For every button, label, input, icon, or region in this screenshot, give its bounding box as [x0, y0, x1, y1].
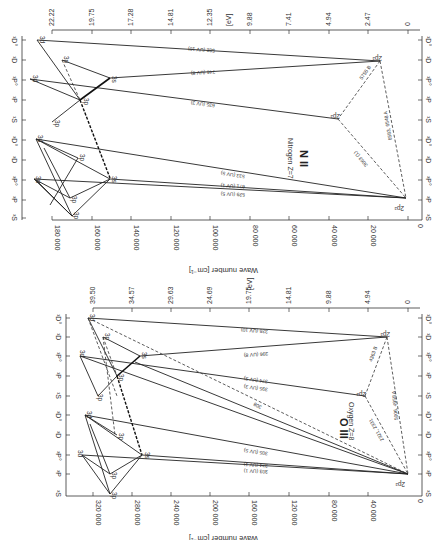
n2-ev-label: [eV] — [225, 13, 233, 26]
n2-term-right: ³P° — [425, 176, 432, 186]
o3-level-3d: 3d — [79, 350, 86, 358]
n2-term-right: ¹S — [425, 116, 432, 123]
n2-line-label: 6583, 6548 A — [382, 110, 393, 141]
n2-level-3d: 3d — [39, 36, 46, 44]
o3-wave-tick: 280 000 — [134, 500, 141, 525]
o3-wave-tick: 320 000 — [95, 500, 102, 525]
n2-term: ¹D° — [11, 36, 18, 46]
n2-level-2p2: 2p² — [394, 204, 404, 212]
n2-level-3s: 3s — [111, 76, 118, 84]
o3-level-3d: 3d — [89, 314, 96, 322]
n2-term: ³P — [11, 196, 18, 203]
n2-line-label: 582 (UV 10) — [187, 46, 215, 54]
o3-term: ¹D — [55, 333, 62, 340]
n2-ev-tick: 7.41 — [285, 12, 292, 26]
o3-term: ³P° — [55, 451, 62, 461]
n2-ev-tick: 2.47 — [364, 12, 371, 26]
n2-ev-tick: 12.35 — [206, 8, 213, 26]
o3-wave-tick: 80 000 — [331, 500, 338, 522]
o3-term-right: ¹S — [425, 392, 432, 399]
o3-level-3s: 3s — [144, 452, 151, 460]
o3-ev-tick: 14.81 — [285, 286, 292, 304]
o3-term-right: ¹P° — [425, 352, 432, 362]
o3-wave-tick: 120 000 — [291, 500, 298, 525]
n2-term-right: ¹D — [425, 56, 432, 63]
o3-term: ³D° — [55, 411, 62, 421]
grotrian-diagrams: 22.22 19.75 17.28 14.81 12.35 9.88 7.41 … — [0, 0, 432, 540]
n2-wave-label: Wave number [cm⁻¹] — [189, 266, 258, 275]
o3-term-right: ³P — [425, 470, 432, 477]
o3-level-3s: 3s — [141, 352, 148, 360]
n2-wave-tick: 100 000 — [212, 225, 219, 250]
o3-wave-tick: 40 000 — [370, 500, 377, 522]
n2-wave-tick: 0 — [417, 224, 424, 228]
n2-term: ¹D — [11, 56, 18, 63]
n2-level-3d: 3d — [35, 176, 42, 184]
o3-ev-tick: 0 — [404, 300, 411, 304]
o3-line-label: 374 (UV 3) — [243, 376, 268, 385]
n2-level-3s: 3s — [111, 176, 118, 184]
n2-term-right: ³D — [425, 156, 432, 163]
n2-term: ³D — [11, 156, 18, 163]
o3-ev-tick: 9.88 — [325, 290, 332, 304]
o3-level-3d: 3d — [86, 411, 93, 419]
o3-line-label: 2321, 2331 — [367, 418, 385, 443]
n2-title: N II — [298, 150, 310, 167]
o3-term-right: ³D° — [425, 411, 432, 421]
o3-term: ³D — [55, 431, 62, 438]
o3-term-right: ¹P — [425, 372, 432, 379]
o3-line-label: 396 (UV 8) — [243, 351, 268, 359]
n2-term-right: ³S — [425, 214, 432, 221]
n2-term-right: ³P — [425, 196, 432, 203]
n2-wave-tick: 160 000 — [94, 225, 101, 250]
n2-transitions — [30, 40, 406, 216]
o3-line-label: 5006, 4958 A — [390, 390, 399, 421]
o3-ev-tick: 34.57 — [128, 286, 135, 304]
o3-line-label: 303 (UV 1) — [243, 468, 268, 475]
o3-term: ¹D° — [55, 314, 62, 324]
n2-ev-tick: 22.22 — [48, 8, 55, 26]
n2-wave-tick: 60 000 — [291, 225, 298, 247]
n2-wave-tick: 120 000 — [173, 225, 180, 250]
n2-panel: 22.22 19.75 17.28 14.81 12.35 9.88 7.41 … — [11, 8, 432, 275]
o3-term: ³S — [55, 490, 62, 497]
o3-term: ³P — [55, 470, 62, 477]
n2-level-3p: 3p — [62, 56, 70, 64]
n2-level-2p2: 2p² — [372, 54, 382, 62]
o3-term: ¹S — [55, 392, 62, 399]
n2-subtitle: Nitrogen Z=7 — [286, 138, 294, 179]
o3-wave-label: Wave number [cm⁻¹] — [189, 534, 258, 540]
n2-level-3p: 3p — [82, 98, 90, 106]
n2-term: ¹P° — [11, 76, 18, 86]
n2-wave-tick: 20 000 — [370, 225, 377, 247]
n2-term: ³S — [11, 214, 18, 221]
o3-wave-tick: 240 000 — [173, 500, 180, 525]
n2-line-label: 5755 B — [358, 64, 372, 81]
n2-ev-tick: 9.88 — [246, 12, 253, 26]
o3-term: ¹P° — [55, 352, 62, 362]
n2-term-right: ¹D° — [425, 36, 432, 46]
o3-ev-tick: 4.94 — [364, 290, 371, 304]
n2-ev-tick: 4.94 — [325, 12, 332, 26]
n2-term: ¹S — [11, 116, 18, 123]
n2-ev-tick: 0 — [404, 22, 411, 26]
n2-level-3p: 3p — [78, 154, 86, 162]
o3-panel: 39.50 34.57 29.63 24.69 19.75 14.81 9.88… — [55, 277, 432, 540]
n2-ev-tick: 14.81 — [167, 8, 174, 26]
n2-term-right: ¹P — [425, 96, 432, 103]
o3-term-right: ¹D — [425, 333, 432, 340]
n2-level-2p2: 2p² — [330, 112, 340, 120]
o3-level-2p2: 2p² — [380, 330, 390, 338]
n2-term: ³P° — [11, 176, 18, 186]
n2-line-label: 3063 (1) — [352, 150, 369, 168]
o3-term: ¹P — [55, 372, 62, 379]
o3-level-2p2: 2p² — [356, 390, 366, 398]
n2-wave-tick: 180 000 — [54, 225, 61, 250]
o3-ev-tick: 29.63 — [167, 286, 174, 304]
n2-level-3p: 3p — [53, 120, 61, 128]
n2-line-label: 671 (UV 1) — [220, 183, 245, 190]
n2-wave-tick: 80 000 — [252, 225, 259, 247]
o3-ev-label: [eV] — [246, 277, 254, 290]
o3-term-right: ³D — [425, 431, 432, 438]
o3-line-label: 374 (UV 1) — [243, 462, 268, 469]
